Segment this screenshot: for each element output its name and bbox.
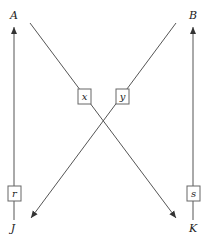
edge-label-s-text: s — [191, 188, 196, 199]
node-b-label: B — [188, 9, 197, 22]
edge-label-x-text: x — [82, 91, 88, 102]
arrow-diagram: x y r s A B J K — [0, 0, 207, 238]
edge-label-y: y — [116, 89, 129, 104]
edge-label-y-text: y — [119, 91, 126, 102]
node-a-label: A — [9, 9, 18, 22]
edge-label-s: s — [187, 186, 200, 201]
node-j-label: J — [9, 222, 16, 235]
edge-label-x: x — [78, 89, 91, 104]
edge-label-r: r — [8, 186, 21, 201]
node-k-label: K — [188, 222, 198, 235]
